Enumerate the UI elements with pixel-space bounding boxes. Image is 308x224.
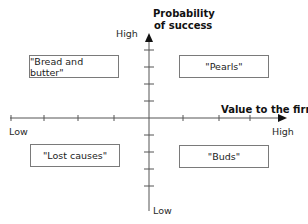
y-axis-low-label: Low [153,206,172,216]
y-axis-high-label: High [116,29,138,39]
quadrant-lost-causes: "Lost causes" [30,144,120,167]
y-axis-title: Probability of success [153,8,215,32]
x-axis-low-label: Low [9,127,28,137]
x-axis-title: Value to the firm [221,104,308,116]
y-axis-title-line1: Probability [153,8,215,20]
y-axis-title-line2: of success [153,20,215,32]
quadrant-buds: "Buds" [179,145,269,168]
quadrant-pearls: "Pearls" [179,55,269,78]
y-axis-arrow-icon [145,33,153,42]
x-axis-high-label: High [272,127,294,137]
quadrant-bread-and-butter: "Bread and butter" [29,55,119,78]
